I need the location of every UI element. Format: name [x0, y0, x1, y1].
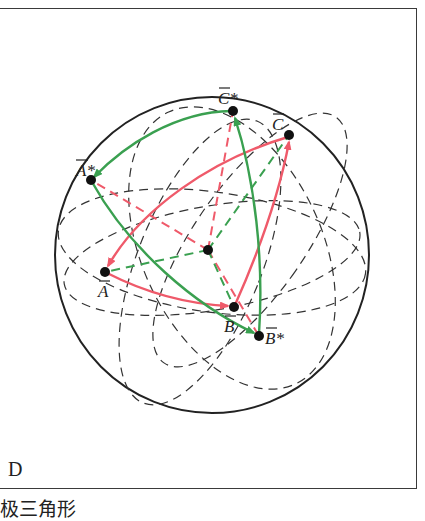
label-c: C — [272, 115, 284, 134]
point-center — [203, 245, 213, 255]
label-b-star: B* — [265, 329, 284, 348]
point-c — [284, 130, 294, 140]
dashed-great-circles — [50, 74, 381, 426]
point-labels: C* C A* A B B* — [75, 88, 284, 348]
label-a: A — [97, 282, 109, 301]
red-triangle-abc — [107, 137, 289, 306]
label-c-star: C* — [218, 89, 238, 108]
panel-label: D — [8, 458, 22, 481]
point-a — [100, 267, 110, 277]
green-polar-triangle — [92, 111, 260, 334]
point-b — [229, 302, 239, 312]
label-b: B — [224, 317, 235, 336]
points — [86, 106, 294, 341]
figure-caption: 极三角形 — [0, 494, 76, 521]
point-b-star — [254, 331, 264, 341]
label-a-star: A* — [75, 161, 95, 180]
